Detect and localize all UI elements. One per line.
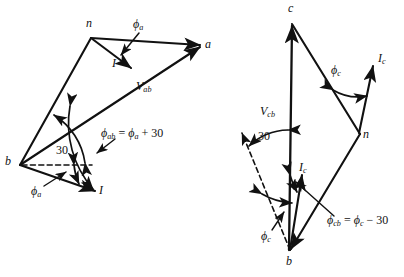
I-subscript: c bbox=[303, 166, 307, 175]
pointer-phi-c-bottom bbox=[272, 212, 284, 230]
minus-thirty: − 30 bbox=[364, 213, 389, 227]
phi-cb-subscript: cb bbox=[333, 219, 341, 228]
label-node-c-right: c bbox=[288, 2, 293, 14]
label-voltage-Vcb: Vcb bbox=[260, 105, 275, 119]
label-node-b-left: b bbox=[5, 155, 11, 167]
I-subscript: c bbox=[382, 57, 386, 66]
equals-sign: = bbox=[115, 126, 128, 140]
label-angle-30-left: 30 bbox=[56, 144, 68, 156]
V-subscript: ab bbox=[143, 85, 151, 94]
label-phi-c-bottom-right: ϕc bbox=[261, 230, 271, 244]
phi-subscript: a bbox=[139, 23, 143, 32]
phasor-diagram-vectors bbox=[0, 0, 404, 277]
vector-n-to-a bbox=[91, 38, 200, 45]
figure-canvas: n a b ϕa I Vab 30 ϕab = ϕa + 30 ϕa I c n… bbox=[0, 0, 404, 277]
label-node-a-left: a bbox=[205, 38, 211, 50]
arc-phi-cb-right bbox=[290, 175, 297, 192]
label-node-n-right: n bbox=[363, 128, 369, 140]
label-voltage-Vab: Vab bbox=[136, 80, 152, 94]
label-phi-c-top-right: ϕc bbox=[331, 64, 341, 78]
label-phi-a-top-left: ϕa bbox=[133, 18, 143, 32]
label-node-n-left: n bbox=[86, 17, 92, 29]
V-subscript: cb bbox=[267, 110, 275, 119]
label-node-b-right: b bbox=[286, 255, 292, 267]
label-angle-30-right: 30 bbox=[258, 130, 270, 142]
label-phi-a-bottom-left: ϕa bbox=[31, 185, 41, 199]
label-current-I-top-left: I bbox=[112, 57, 116, 69]
label-current-Ic-top-right: Ic bbox=[378, 52, 386, 66]
phi-subscript: a bbox=[37, 190, 41, 199]
pointer-phi-a-top bbox=[121, 33, 139, 55]
vector-n-to-b bbox=[291, 134, 360, 249]
vector-n-current-I bbox=[91, 38, 131, 68]
plus-thirty: + 30 bbox=[138, 126, 163, 140]
arc-phi-c-bottom bbox=[262, 194, 292, 203]
equals-sign: = bbox=[341, 213, 354, 227]
label-phi-cb-equation: ϕcb = ϕc − 30 bbox=[327, 214, 388, 228]
vector-c-to-n bbox=[292, 24, 360, 134]
vector-b-to-a-Vab bbox=[20, 47, 200, 165]
phi-subscript: c bbox=[337, 69, 341, 78]
label-current-I-bottom-left: I bbox=[99, 184, 103, 196]
label-current-Ic-mid-right: Ic bbox=[299, 161, 307, 175]
vector-n-current-Ic bbox=[359, 66, 373, 133]
arc-phi-c-top bbox=[333, 90, 367, 97]
vector-b-to-c-Vcb bbox=[289, 26, 292, 250]
pointer-phi-ab bbox=[97, 139, 115, 153]
label-phi-ab-equation: ϕab = ϕa + 30 bbox=[101, 127, 163, 141]
phi-subscript: c bbox=[267, 235, 271, 244]
